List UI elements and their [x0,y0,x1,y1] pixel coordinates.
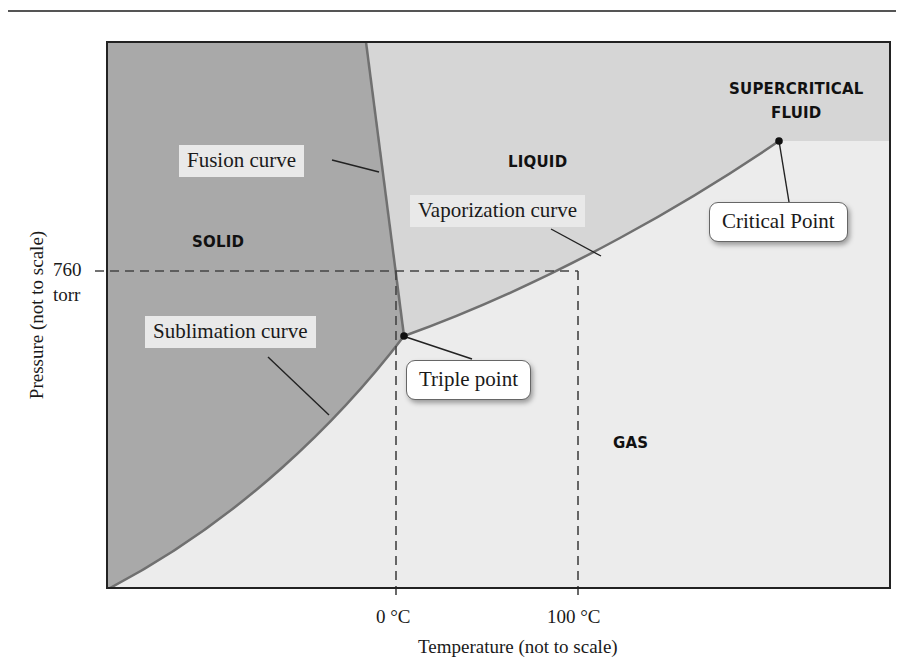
triple-point-callout: Triple point [406,360,531,400]
phase-label-supercritical: SUPERCRITICAL FLUID [729,77,864,125]
phase-label-solid: SOLID [192,233,244,251]
sublimation-curve-label: Sublimation curve [145,316,316,348]
critical-point-callout: Critical Point [709,202,848,242]
critical-point-marker [775,137,783,145]
vaporization-curve-label: Vaporization curve [410,195,585,227]
fusion-curve-label: Fusion curve [179,145,304,177]
y-tick-760: 760 [53,259,82,281]
supercritical-line-1: SUPERCRITICAL [729,77,864,101]
x-tick-100c: 100 °C [547,606,601,628]
x-axis-label: Temperature (not to scale) [418,636,618,658]
phase-label-liquid: LIQUID [508,153,567,171]
phase-label-gas: GAS [613,434,648,452]
triple-point-marker [400,332,408,340]
y-tick-torr: torr [53,284,80,306]
x-tick-0c: 0 °C [376,606,411,628]
supercritical-line-2: FLUID [729,101,864,125]
y-axis-label: Pressure (not to scale) [26,231,48,399]
